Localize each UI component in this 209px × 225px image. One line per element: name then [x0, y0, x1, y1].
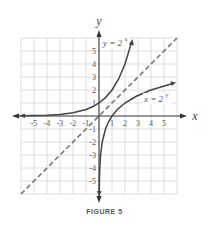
x-axis-label: x	[191, 109, 198, 123]
svg-text:-1: -1	[83, 119, 90, 128]
figure-caption: FIGURE 5	[0, 208, 209, 215]
svg-text:y: y	[165, 91, 169, 98]
svg-text:x = 2: x = 2	[143, 94, 164, 104]
x-tick-labels: -5 -4 -3 -2 -1 1 2 3 4 5	[31, 119, 166, 128]
svg-text:2: 2	[123, 119, 127, 128]
svg-text:-2: -2	[70, 119, 77, 128]
y-axis-arrow-up-icon	[97, 30, 102, 37]
y-axis-label: y	[95, 14, 102, 28]
figure-canvas: -5 -4 -3 -2 -1 1 2 3 4 5 1 2 3 4 5 -1 -2…	[0, 0, 209, 225]
y-axis-arrow-down-icon	[97, 196, 102, 203]
svg-text:y = 2: y = 2	[102, 38, 123, 48]
svg-text:-4: -4	[89, 164, 96, 173]
svg-text:-5: -5	[89, 177, 96, 186]
svg-text:-2: -2	[89, 138, 96, 147]
svg-text:3: 3	[92, 73, 96, 82]
svg-text:-1: -1	[89, 125, 96, 134]
curve1-left-arrow-icon	[19, 114, 25, 119]
svg-text:5: 5	[92, 47, 96, 56]
curve2-label: x = 2 y	[143, 91, 171, 104]
x-axis-arrow-left-icon	[12, 114, 19, 119]
x-axis-arrow-right-icon	[180, 114, 187, 119]
svg-text:-5: -5	[31, 119, 38, 128]
svg-text:4: 4	[92, 60, 96, 69]
svg-text:-4: -4	[44, 119, 51, 128]
curve2-arrow-icon	[171, 81, 177, 86]
svg-text:2: 2	[92, 86, 96, 95]
curve1-label: y = 2 x	[102, 35, 129, 48]
svg-text:3: 3	[136, 119, 140, 128]
curve-y-equals-2-to-x	[21, 42, 132, 115]
svg-text:1: 1	[110, 119, 114, 128]
svg-text:1: 1	[92, 99, 96, 108]
svg-text:5: 5	[162, 119, 166, 128]
svg-text:-3: -3	[89, 151, 96, 160]
curve1-arrow-icon	[129, 39, 134, 46]
svg-text:-3: -3	[57, 119, 64, 128]
svg-text:4: 4	[149, 119, 153, 128]
svg-text:x: x	[124, 35, 128, 42]
